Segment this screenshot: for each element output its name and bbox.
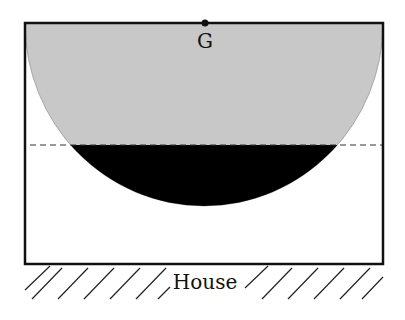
point-g-label: G xyxy=(197,29,213,53)
point-g-marker xyxy=(202,20,209,27)
diagram: G House xyxy=(0,0,405,320)
ground-label: House xyxy=(173,270,237,294)
